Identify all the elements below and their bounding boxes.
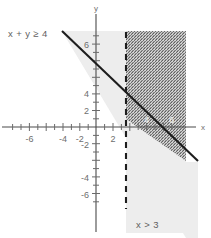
y-tick-label-4: 4 [84,89,89,99]
y-tick-label-6: 6 [84,40,89,50]
x-tick-label-6: 6 [169,115,174,125]
x-tick-label-neg6: -6 [25,134,33,144]
y-tick-label-neg4: -4 [81,173,89,183]
y-tick-label-neg6: -6 [81,190,89,200]
inequality-label-x-gt-3: x > 3 [136,219,159,230]
x-axis-label: x [201,123,205,132]
x-tick-label-neg4: -4 [59,134,67,144]
inequality-label-x-plus-y: x + y ≥ 4 [8,28,48,39]
x-tick-label-2: 2 [110,134,115,144]
y-axis-label: y [94,4,98,13]
y-tick-label-neg2: -2 [81,140,89,150]
y-tick-label-2: 2 [84,106,89,116]
inequality-graph-figure: -6 -4 -2 2 4 6 6 4 2 -2 -4 -6 x y x + y … [0,0,211,238]
x-tick-label-4: 4 [144,115,149,125]
